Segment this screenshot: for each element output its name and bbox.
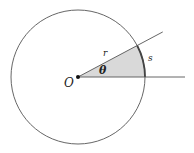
radius-label: r [103,48,108,58]
center-point [76,75,80,79]
arc-label: s [148,53,153,63]
center-label: O [64,76,74,90]
sector-diagram: O r θ s [0,0,194,153]
shaded-sector [78,46,145,77]
angle-label: θ [99,64,107,77]
